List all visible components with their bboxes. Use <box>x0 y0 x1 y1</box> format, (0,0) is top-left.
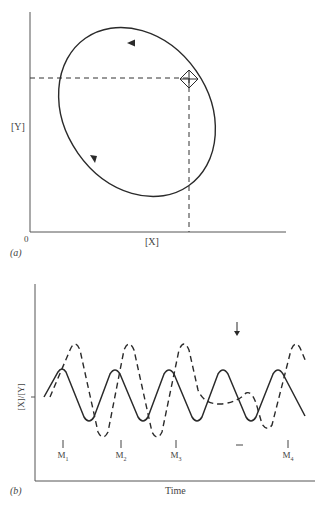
series-x-solid <box>44 369 305 421</box>
figure-canvas <box>0 0 323 507</box>
x-axis-label-a: [X] <box>145 236 159 247</box>
origin-label: 0 <box>24 234 29 244</box>
perturbation-arrow-icon <box>234 322 240 336</box>
marker-label-m3: M3 <box>164 450 188 462</box>
x-axis-label-b: Time <box>165 485 186 496</box>
panel-b-label: (b) <box>10 485 22 496</box>
y-axis-label-a: [Y] <box>11 121 25 132</box>
direction-arrow-icon <box>90 40 135 164</box>
marker-label-m1: M1 <box>51 450 75 462</box>
series-y-dashed <box>50 344 306 437</box>
panel-a-label: (a) <box>10 247 22 258</box>
marker-ticks <box>63 440 288 448</box>
diamond-marker-icon <box>180 70 198 88</box>
limit-cycle <box>26 0 247 227</box>
marker-label-m4: M4 <box>276 450 300 462</box>
y-axis-label-b: [X]/[Y] <box>16 383 26 411</box>
marker-label-m2: M2 <box>109 450 133 462</box>
panel-a-axes <box>30 12 286 232</box>
panel-a-projection-lines <box>30 78 189 232</box>
